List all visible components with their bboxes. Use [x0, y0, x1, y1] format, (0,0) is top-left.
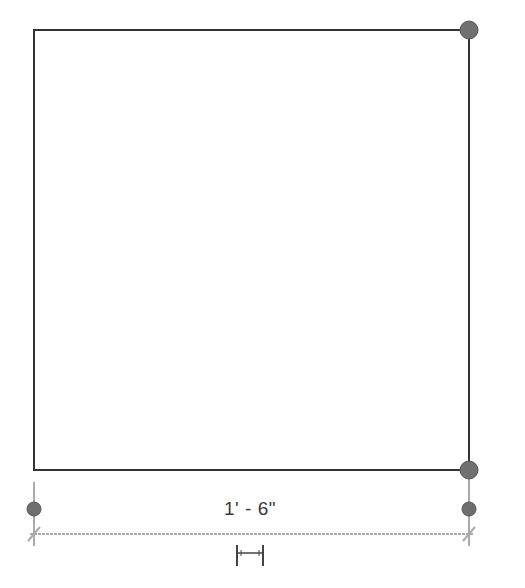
bottom-right-corner-grip[interactable]: [460, 461, 478, 479]
left-witness-grip[interactable]: [27, 502, 41, 516]
top-right-corner-grip[interactable]: [460, 21, 478, 39]
rectangle-shape[interactable]: [34, 30, 469, 470]
dimension-value-label[interactable]: 1' - 6": [200, 498, 300, 520]
flip-dimension-icon[interactable]: [237, 545, 263, 566]
right-witness-grip[interactable]: [462, 502, 476, 516]
